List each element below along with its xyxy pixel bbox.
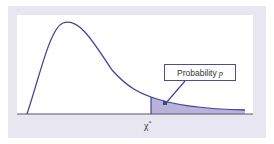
- critical-value-label: χ*: [144, 120, 151, 131]
- annotation-var: p: [219, 68, 223, 78]
- pointer-dot: [163, 101, 167, 105]
- annotation-text: Probability: [177, 68, 217, 78]
- annotation-pointer: [166, 81, 185, 103]
- probability-annotation: Probability p: [164, 64, 236, 81]
- shaded-tail-area: [151, 97, 245, 114]
